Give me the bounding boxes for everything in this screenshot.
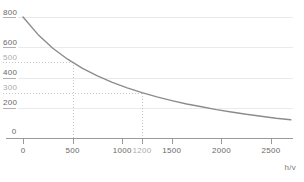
decay-curve-chart: 8006005004003002000050010001200150020002… (0, 0, 304, 182)
y-axis-label: 200 (3, 98, 17, 107)
x-tick-label: 1500 (162, 146, 181, 155)
y-axis-label: 500 (3, 53, 17, 62)
x-tick-label: 2500 (262, 146, 281, 155)
x-tick-label: 2000 (212, 146, 231, 155)
y-axis-label: 600 (3, 38, 17, 47)
y-axis-zero-label: 0 (12, 127, 17, 136)
y-axis-label: 400 (3, 68, 17, 77)
curve-path (23, 17, 291, 120)
y-axis-label: 300 (3, 83, 17, 92)
x-axis-unit-label: h/v (284, 163, 296, 172)
x-tick-label: 1000 (113, 146, 132, 155)
y-axis-label: 800 (3, 8, 17, 17)
x-tick-label: 0 (21, 146, 26, 155)
x-tick-label: 1200 (133, 146, 152, 155)
chart-container: 8006005004003002000050010001200150020002… (0, 0, 304, 182)
x-tick-label: 500 (65, 146, 79, 155)
